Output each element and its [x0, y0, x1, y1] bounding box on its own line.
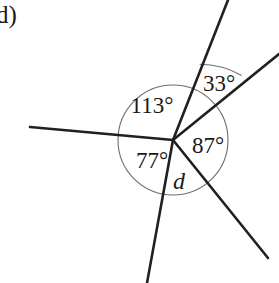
angle-label-77: 77° — [136, 149, 168, 172]
angle-label-87: 87° — [192, 134, 224, 157]
geometry-figure: d) 113° 33° 87° 77° d — [0, 0, 279, 283]
angle-label-d: d — [173, 169, 185, 193]
ray-lower-right — [173, 140, 268, 258]
angle-label-113: 113° — [131, 94, 174, 117]
part-label: d) — [0, 2, 17, 27]
ray-left-horizontal — [30, 127, 173, 140]
angles-at-a-point-diagram — [0, 0, 279, 283]
angle-label-33: 33° — [203, 72, 235, 95]
